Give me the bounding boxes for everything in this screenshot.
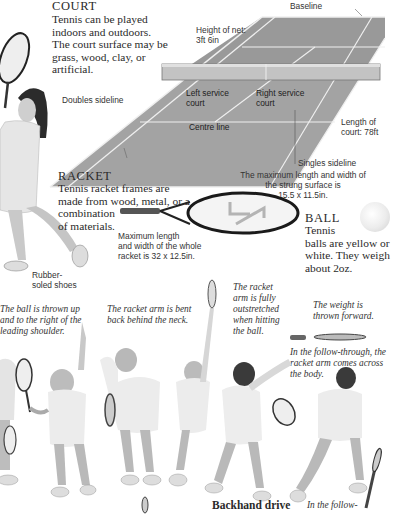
note-line: The maximum length and width of: [228, 170, 378, 180]
caption-line: The weight is: [313, 300, 385, 311]
caption-line: The racket arm is bent: [107, 304, 207, 315]
caption-line: The racket: [233, 282, 303, 293]
label-line: Length of: [341, 117, 378, 127]
ball-line: white. They weigh: [305, 249, 395, 262]
note-line: racket is 32 x 12.5in.: [118, 251, 201, 261]
net-height-label: Height of net: 3ft 6in: [196, 25, 246, 45]
backhand-drive-title: Backhand drive: [212, 499, 290, 511]
net-height-value: 3ft 6in: [196, 35, 246, 45]
ball-line: about 2oz.: [305, 262, 395, 275]
serve-figure-2: [30, 322, 96, 497]
tennis-ball-image: [360, 202, 390, 232]
label-line: court: 78ft: [341, 127, 378, 137]
singles-sideline-label: Singles sideline: [298, 158, 356, 168]
court-heading: COURT: [52, 0, 97, 13]
rubber-shoes-label: Rubber- soled shoes: [32, 270, 77, 290]
serve-figure-1: [0, 359, 32, 485]
label-line: Right service: [256, 88, 304, 98]
backhand-caption: In the follow-: [307, 500, 358, 511]
label-line: Rubber-: [32, 270, 77, 280]
baseline-label: Baseline: [290, 1, 322, 11]
note-line: Maximum length: [118, 231, 201, 241]
label-line: court: [256, 98, 304, 108]
left-service-court-label: Left service court: [186, 88, 229, 108]
label-line: Left service: [186, 88, 229, 98]
caption-line: The ball is thrown up: [0, 304, 100, 315]
ball-description: Tennis balls are yellow or white. They w…: [305, 224, 395, 274]
net-height-line: Height of net:: [196, 25, 246, 35]
ball-line: balls are yellow or: [305, 237, 395, 250]
serve-figure-6: [268, 367, 367, 502]
right-service-court-label: Right service court: [256, 88, 304, 108]
serve-figure-5: [205, 362, 290, 501]
serve-caption-4: The weight is thrown forward.: [313, 300, 385, 322]
label-line: soled shoes: [32, 280, 77, 290]
whole-racket-note: Maximum length and width of the whole ra…: [118, 231, 201, 261]
serve-figure-3: [100, 348, 161, 485]
caption-line: arm is fully: [233, 293, 303, 304]
label-line: court: [186, 98, 229, 108]
racket-line: Tennis racket frames are: [58, 182, 208, 195]
player-illustration: [0, 30, 100, 280]
note-line: the strung surface is: [228, 180, 378, 190]
court-length-label: Length of court: 78ft: [341, 117, 378, 137]
court-line: Tennis can be played: [52, 13, 182, 26]
small-racket-bottom: [142, 497, 148, 513]
serve-racket-horizontal: [290, 334, 366, 340]
note-line: and width of the whole: [118, 241, 201, 251]
caption-line: outstretched: [233, 304, 303, 315]
serve-sequence-illustration: [0, 320, 385, 514]
centre-line-label: Centre line: [189, 122, 230, 132]
backhand-racket: [366, 448, 383, 508]
